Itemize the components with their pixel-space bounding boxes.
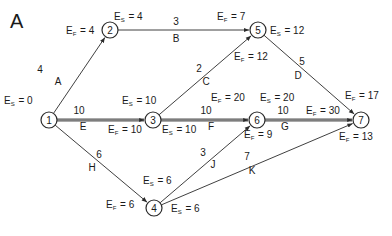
duration-b: 3 bbox=[173, 16, 179, 27]
node-5: 5 bbox=[250, 22, 266, 38]
early-finish-annotation: EF = 4 bbox=[66, 25, 95, 37]
duration-c: 2 bbox=[196, 63, 202, 74]
node-4: 4 bbox=[146, 200, 162, 216]
activity-arrows bbox=[53, 30, 354, 205]
panel-label: A bbox=[10, 10, 24, 32]
node-number: 5 bbox=[255, 25, 261, 36]
node-3: 3 bbox=[145, 112, 161, 128]
activity-name-d: D bbox=[294, 70, 301, 81]
early-finish-annotation: EF = 6 bbox=[106, 199, 135, 211]
node-number: 2 bbox=[107, 25, 113, 36]
early-finish-annotation: EF = 20 bbox=[211, 92, 245, 104]
early-finish-annotation: EF = 12 bbox=[234, 51, 268, 63]
activity-name-k: K bbox=[249, 165, 256, 176]
activity-name-j: J bbox=[211, 159, 216, 170]
activity-name-e: E bbox=[80, 121, 87, 132]
node-7: 7 bbox=[353, 112, 369, 128]
node-number: 6 bbox=[254, 115, 260, 126]
duration-e: 10 bbox=[73, 105, 85, 116]
early-finish-annotation: EF = 9 bbox=[244, 129, 273, 141]
early-start-annotation: ES = 6 bbox=[171, 203, 200, 215]
duration-h: 6 bbox=[96, 149, 102, 160]
duration-g: 10 bbox=[277, 105, 289, 116]
time-annotations: ES = 0EF = 4ES = 4EF = 7ES = 12EF = 12EF… bbox=[4, 11, 379, 215]
node-6: 6 bbox=[249, 112, 265, 128]
activity-name-g: G bbox=[281, 121, 289, 132]
arrow-h bbox=[55, 125, 147, 202]
duration-j: 3 bbox=[200, 147, 206, 158]
early-finish-annotation: EF = 13 bbox=[339, 131, 373, 143]
activity-name-f: F bbox=[208, 121, 214, 132]
activity-name-b: B bbox=[173, 33, 180, 44]
early-finish-annotation: EF = 30 bbox=[306, 105, 340, 117]
duration-k: 7 bbox=[244, 151, 250, 162]
node-number: 3 bbox=[150, 115, 156, 126]
node-2: 2 bbox=[102, 22, 118, 38]
early-start-annotation: ES = 6 bbox=[143, 175, 172, 187]
early-start-annotation: ES = 20 bbox=[260, 92, 295, 104]
early-finish-annotation: EF = 10 bbox=[108, 124, 142, 136]
activity-name-a: A bbox=[55, 76, 62, 87]
node-number: 4 bbox=[151, 203, 157, 214]
duration-d: 5 bbox=[299, 56, 305, 67]
duration-f: 10 bbox=[200, 105, 212, 116]
early-start-annotation: ES = 4 bbox=[114, 11, 143, 23]
early-finish-annotation: EF = 7 bbox=[217, 11, 246, 23]
node-number: 7 bbox=[358, 115, 364, 126]
activity-name-h: H bbox=[88, 162, 95, 173]
early-start-annotation: ES = 10 bbox=[122, 95, 157, 107]
early-start-annotation: ES = 0 bbox=[4, 95, 33, 107]
node-number: 1 bbox=[46, 115, 52, 126]
activity-name-c: C bbox=[202, 76, 209, 87]
arrow-j bbox=[160, 126, 250, 203]
early-finish-annotation: EF = 17 bbox=[345, 90, 379, 102]
network-diagram: A 4A3B2C5D10E10F10G6H3J7K ES = 0EF = 4ES… bbox=[0, 0, 392, 236]
early-start-annotation: ES = 10 bbox=[162, 124, 197, 136]
node-1: 1 bbox=[41, 112, 57, 128]
early-start-annotation: ES = 12 bbox=[270, 25, 305, 37]
duration-a: 4 bbox=[37, 64, 43, 75]
